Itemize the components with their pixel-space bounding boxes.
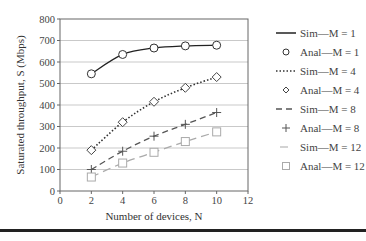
circle-marker (150, 44, 158, 52)
x-tick-label: 4 (120, 195, 126, 206)
y-axis-ticks: 0100200300400500600700800 (39, 14, 60, 197)
legend-item-sim-m1: Sim—M = 1 (276, 26, 366, 40)
x-tick-label: 6 (151, 195, 156, 206)
circle-marker-icon (276, 45, 298, 59)
legend-item-anal-m1: Anal—M = 1 (276, 45, 366, 59)
light-dashed-line-icon (276, 140, 298, 154)
circle-marker (87, 70, 95, 78)
legend-item-sim-m4: Sim—M = 4 (276, 64, 366, 78)
dotted-line-icon (276, 64, 298, 78)
square-marker (150, 148, 158, 156)
diamond-marker (212, 73, 221, 82)
legend-label: Anal—M = 12 (300, 159, 365, 173)
square-marker (87, 173, 95, 181)
y-tick-label: 100 (39, 164, 55, 175)
y-tick-label: 600 (39, 57, 55, 68)
legend-label: Sim—M = 4 (300, 64, 356, 78)
plus-marker (150, 132, 159, 141)
y-tick-label: 300 (39, 121, 55, 132)
plus-marker (181, 120, 190, 129)
legend-label: Anal—M = 8 (300, 121, 359, 135)
square-marker-icon (276, 159, 298, 173)
x-axis-label: Number of devices, N (105, 210, 202, 222)
legend-item-anal-m4: Anal—M = 4 (276, 83, 366, 97)
square-marker (181, 138, 189, 146)
diamond-marker-icon (276, 83, 298, 97)
legend-label: Anal—M = 4 (300, 83, 359, 97)
legend-label: Anal—M = 1 (300, 45, 359, 59)
circle-marker (119, 50, 127, 58)
bottom-rule (0, 229, 366, 232)
y-tick-label: 700 (39, 35, 55, 46)
legend-item-sim-m8: Sim—M = 8 (276, 102, 366, 116)
circle-marker (213, 41, 221, 49)
x-tick-label: 0 (57, 195, 62, 206)
y-tick-label: 0 (50, 186, 55, 197)
dashed-line-icon (276, 102, 298, 116)
square-marker (119, 159, 127, 167)
legend-label: Sim—M = 8 (300, 102, 356, 116)
x-tick-label: 12 (243, 195, 254, 206)
legend-label: Sim—M = 1 (300, 26, 356, 40)
x-tick-label: 2 (89, 195, 94, 206)
x-tick-label: 8 (183, 195, 188, 206)
y-tick-label: 400 (39, 100, 55, 111)
circle-marker (181, 42, 189, 50)
legend-item-sim-m12: Sim—M = 12 (276, 140, 366, 154)
x-axis-ticks: 024681012 (57, 191, 253, 206)
square-marker (213, 128, 221, 136)
y-axis-label: Saturated throughput, S (Mbps) (14, 35, 27, 175)
legend-label: Sim—M = 12 (300, 140, 361, 154)
x-tick-label: 10 (211, 195, 222, 206)
plus-marker-icon (276, 121, 298, 135)
solid-line-icon (276, 26, 298, 40)
legend-item-anal-m12: Anal—M = 12 (276, 159, 366, 173)
diamond-marker (181, 83, 190, 92)
y-tick-label: 200 (39, 143, 55, 154)
y-tick-label: 800 (39, 14, 55, 25)
series-line (91, 113, 216, 170)
y-tick-label: 500 (39, 78, 55, 89)
legend-item-anal-m8: Anal—M = 8 (276, 121, 366, 135)
plus-marker (212, 108, 221, 117)
